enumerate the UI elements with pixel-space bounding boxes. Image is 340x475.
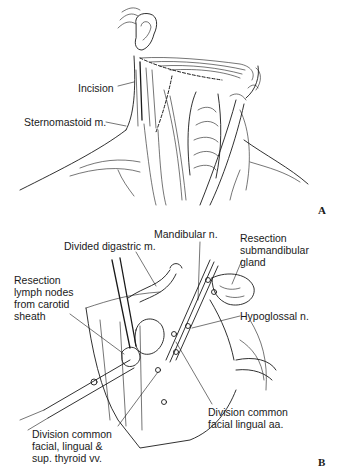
label-hypoglossal-nerve: Hypoglossal n. xyxy=(240,310,309,322)
figure-a-neck-incision: Incision Sternomastoid m. A xyxy=(0,0,340,230)
label-divided-digastric: Divided digastric m. xyxy=(64,240,156,252)
label-resection-submandibular: Resection submandibular gland xyxy=(240,232,309,268)
label-division-facial-vv: Division common facial, lingual & sup. t… xyxy=(32,428,112,464)
neck-illustration xyxy=(0,0,340,230)
label-division-facial-aa: Division common facial lingual aa. xyxy=(208,406,288,430)
label-sternomastoid: Sternomastoid m. xyxy=(24,116,106,128)
panel-label-a: A xyxy=(318,204,326,216)
figure-b-dissection: Mandibular n. Divided digastric m. Resec… xyxy=(0,230,340,475)
label-incision: Incision xyxy=(78,82,114,94)
label-mandibular-nerve: Mandibular n. xyxy=(154,228,218,240)
panel-label-b: B xyxy=(318,456,325,468)
label-resection-lymph-nodes: Resection lymph nodes from carotid sheat… xyxy=(14,274,74,322)
